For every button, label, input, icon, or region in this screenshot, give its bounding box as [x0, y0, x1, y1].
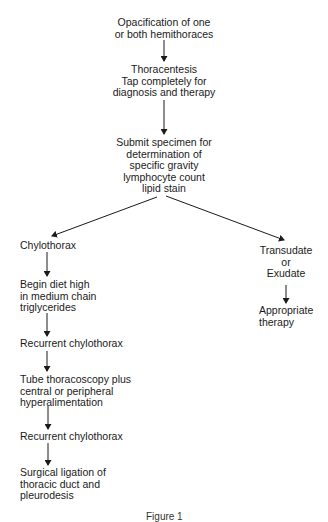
node-text: hyperalimentation: [20, 397, 131, 409]
node-text: Chylothorax: [20, 240, 76, 252]
node-tube-thoracoscopy: Tube thoracoscopy plus central or periph…: [20, 374, 131, 409]
node-text: triglycerides: [20, 302, 96, 314]
node-text: Appropriate: [259, 305, 313, 317]
node-text: Begin diet high: [20, 279, 96, 291]
node-text: pleurodesis: [20, 490, 106, 502]
node-submit-specimen: Submit specimen for determination of spe…: [116, 137, 212, 195]
node-recurrent-chylothorax-2: Recurrent chylothorax: [20, 431, 123, 443]
node-text: Surgical ligation of: [20, 467, 106, 479]
node-text: or both hemithoraces: [115, 29, 214, 41]
node-begin-diet: Begin diet high in medium chain triglyce…: [20, 279, 96, 314]
node-text: Thoracentesis: [113, 64, 216, 76]
node-text: Transudate: [260, 245, 313, 257]
node-transudate-exudate: Transudate or Exudate: [260, 245, 313, 280]
arrow-n3-n5: [166, 196, 284, 240]
node-appropriate-therapy: Appropriate therapy: [259, 305, 313, 328]
node-text: diagnosis and therapy: [113, 87, 216, 99]
node-opacification: Opacification of one or both hemithorace…: [115, 17, 214, 40]
node-text: specific gravity: [116, 160, 212, 172]
node-text: Opacification of one: [115, 17, 214, 29]
node-text: Recurrent chylothorax: [20, 431, 123, 443]
node-text: lipid stain: [116, 183, 212, 195]
node-thoracentesis: Thoracentesis Tap completely for diagnos…: [113, 64, 216, 99]
node-text: Submit specimen for: [116, 137, 212, 149]
figure-caption: Figure 1: [146, 511, 183, 522]
node-text: Exudate: [260, 268, 313, 280]
node-chylothorax: Chylothorax: [20, 240, 76, 252]
node-text: Recurrent chylothorax: [20, 338, 123, 350]
node-text: therapy: [259, 317, 313, 329]
arrow-n3-n4: [52, 197, 157, 236]
node-recurrent-chylothorax-1: Recurrent chylothorax: [20, 338, 123, 350]
node-text: Tube thoracoscopy plus: [20, 374, 131, 386]
node-surgical-ligation: Surgical ligation of thoracic duct and p…: [20, 467, 106, 502]
